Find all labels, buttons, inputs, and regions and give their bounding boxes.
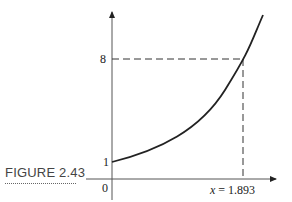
origin-label: 0 — [102, 181, 108, 195]
y-label-1: 1 — [103, 155, 109, 169]
caption-underline — [5, 183, 76, 184]
figure-caption: FIGURE 2.43 — [5, 165, 85, 180]
y-label-8: 8 — [100, 52, 106, 66]
x-value-label: x = 1.893 — [209, 183, 255, 197]
exponential-curve — [112, 15, 263, 162]
